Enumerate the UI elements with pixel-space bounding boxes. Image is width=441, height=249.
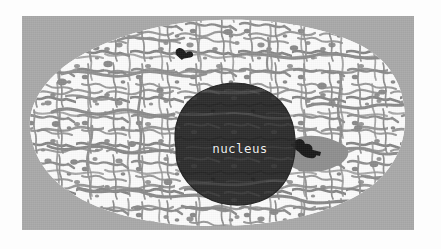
cell-diagram [22,16,414,230]
figure-root: nucleus [0,0,441,249]
nucleus-label: nucleus [198,142,282,156]
micrograph-panel: nucleus [22,16,414,230]
